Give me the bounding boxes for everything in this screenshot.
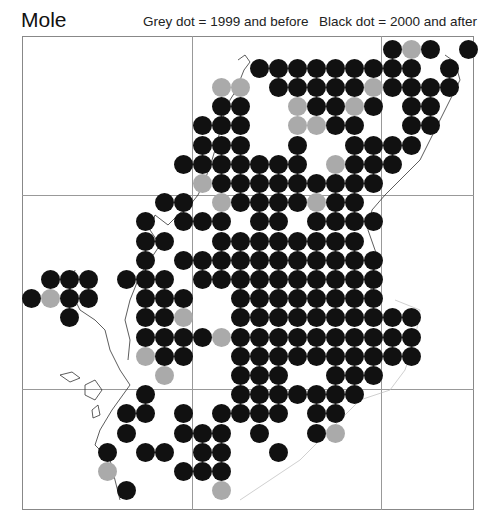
record-dot-black xyxy=(326,174,345,193)
record-dot-black xyxy=(307,424,326,443)
record-dot-black xyxy=(345,78,364,97)
record-dot-black xyxy=(136,385,155,404)
record-dot-black xyxy=(326,193,345,212)
record-dot-black xyxy=(155,193,174,212)
record-dot-black xyxy=(326,404,345,423)
record-dot-black xyxy=(288,193,307,212)
record-dot-black xyxy=(174,212,193,231)
record-dot-black xyxy=(193,443,212,462)
record-dot-black xyxy=(212,232,231,251)
record-dot-black xyxy=(345,59,364,78)
record-dot-black xyxy=(250,212,269,231)
record-dot-black xyxy=(288,328,307,347)
record-dot-black xyxy=(307,347,326,366)
record-dot-black xyxy=(212,97,231,116)
record-dot-black xyxy=(383,59,402,78)
record-dot-black xyxy=(402,97,421,116)
record-dot-black xyxy=(250,404,269,423)
record-dot-black xyxy=(250,424,269,443)
record-dot-black xyxy=(288,308,307,327)
record-dot-black xyxy=(231,251,250,270)
record-dot-black xyxy=(364,366,383,385)
record-dot-black xyxy=(288,78,307,97)
record-dot-black xyxy=(383,40,402,59)
record-dot-black xyxy=(345,251,364,270)
record-dot-black xyxy=(193,270,212,289)
record-dot-black xyxy=(288,347,307,366)
record-dot-grey xyxy=(155,366,174,385)
record-dot-black xyxy=(174,347,193,366)
record-dot-black xyxy=(307,308,326,327)
record-dot-black xyxy=(269,404,288,423)
record-dot-black xyxy=(212,270,231,289)
record-dot-black xyxy=(174,289,193,308)
record-dot-black xyxy=(250,385,269,404)
record-dot-black xyxy=(326,270,345,289)
record-dot-black xyxy=(402,78,421,97)
record-dot-black xyxy=(402,116,421,135)
record-dot-black xyxy=(402,308,421,327)
record-dot-black xyxy=(212,116,231,135)
record-dot-grey xyxy=(41,289,60,308)
record-dot-black xyxy=(41,270,60,289)
record-dot-black xyxy=(269,385,288,404)
record-dot-black xyxy=(345,174,364,193)
record-dot-black xyxy=(193,155,212,174)
record-dot-black xyxy=(269,232,288,251)
record-dot-grey xyxy=(98,462,117,481)
record-dot-black xyxy=(383,347,402,366)
record-dot-black xyxy=(231,116,250,135)
record-dot-black xyxy=(326,116,345,135)
record-dot-grey xyxy=(136,347,155,366)
record-dot-black xyxy=(231,308,250,327)
record-dot-black xyxy=(136,212,155,231)
record-dot-black xyxy=(383,136,402,155)
record-dot-black xyxy=(402,136,421,155)
record-dot-black xyxy=(440,78,459,97)
record-dot-black xyxy=(250,59,269,78)
record-dot-grey xyxy=(345,97,364,116)
record-dot-black xyxy=(326,232,345,251)
record-dot-black xyxy=(269,78,288,97)
record-dot-black xyxy=(307,232,326,251)
record-dot-grey xyxy=(326,155,345,174)
record-dot-black xyxy=(364,289,383,308)
record-dot-black xyxy=(212,155,231,174)
record-dot-black xyxy=(60,308,79,327)
record-dot-black xyxy=(231,136,250,155)
record-dot-black xyxy=(269,174,288,193)
record-dot-black xyxy=(174,424,193,443)
record-dot-black xyxy=(326,59,345,78)
record-dot-black xyxy=(136,404,155,423)
record-dot-black xyxy=(231,97,250,116)
record-dot-black xyxy=(345,328,364,347)
record-dot-black xyxy=(22,289,41,308)
record-dot-black xyxy=(136,443,155,462)
record-dot-black xyxy=(231,270,250,289)
record-dot-grey xyxy=(364,78,383,97)
record-dot-black xyxy=(364,174,383,193)
record-dot-black xyxy=(117,270,136,289)
record-dot-black xyxy=(193,136,212,155)
record-dot-black xyxy=(117,424,136,443)
record-dot-black xyxy=(288,59,307,78)
record-dot-black xyxy=(155,270,174,289)
record-dot-black xyxy=(250,174,269,193)
record-dot-black xyxy=(383,308,402,327)
record-dot-black xyxy=(136,251,155,270)
record-dot-black xyxy=(174,193,193,212)
record-dot-black xyxy=(250,270,269,289)
record-dot-black xyxy=(326,251,345,270)
record-dot-black xyxy=(174,251,193,270)
record-dot-black xyxy=(269,443,288,462)
record-dot-black xyxy=(269,270,288,289)
record-dot-grey xyxy=(212,193,231,212)
record-dot-black xyxy=(155,308,174,327)
record-dot-black xyxy=(60,289,79,308)
record-dot-black xyxy=(421,116,440,135)
record-dot-black xyxy=(136,232,155,251)
record-dot-black xyxy=(288,251,307,270)
record-dot-black xyxy=(79,270,98,289)
record-dot-black xyxy=(269,212,288,231)
record-dot-black xyxy=(269,308,288,327)
